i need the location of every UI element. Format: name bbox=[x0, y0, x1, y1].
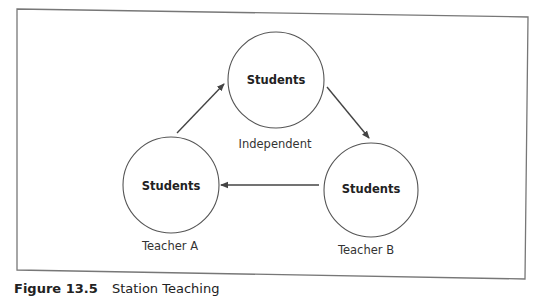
arrow-independent-to-teacher-b bbox=[327, 87, 369, 138]
teacher-b-caption: Teacher B bbox=[337, 243, 394, 257]
independent-caption: Independent bbox=[239, 137, 312, 151]
figure-number: Figure 13.5 bbox=[14, 281, 98, 296]
figure-title: Station Teaching bbox=[112, 281, 220, 296]
teacher-a-caption: Teacher A bbox=[141, 239, 198, 253]
figure-caption: Figure 13.5 Station Teaching bbox=[14, 281, 219, 296]
node-teacher-b: Students Teacher B bbox=[324, 143, 418, 257]
node-teacher-a: Students Teacher A bbox=[123, 137, 219, 253]
students-label: Students bbox=[247, 73, 306, 87]
node-independent: Students Independent bbox=[228, 32, 324, 151]
students-label: Students bbox=[342, 182, 401, 196]
arrow-teacher-a-to-independent bbox=[177, 84, 224, 133]
students-label: Students bbox=[142, 179, 201, 193]
